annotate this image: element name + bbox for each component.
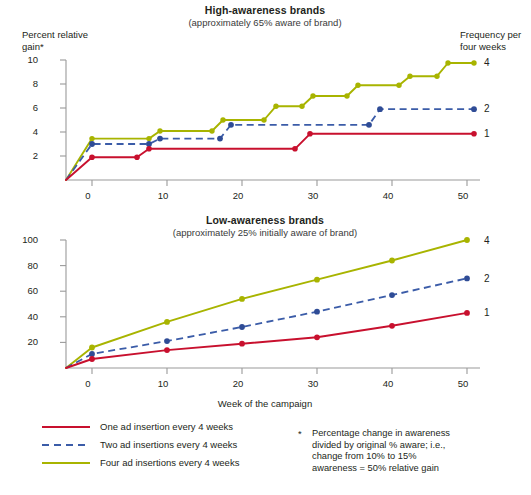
footnote-line-4: awareness = 50% relative gain [312,463,528,475]
y-axis-title-line1: Percent relative [22,29,88,40]
chart2-axes [60,240,480,374]
chart2-freq-label-4: 4 [484,235,490,246]
chart2-ytick-40: 40 [10,311,38,322]
chart1-xtick-40: 40 [378,190,398,201]
chart2-xtick-0: 0 [78,378,98,389]
chart1-right-axis-title: Frequency per four weeks [460,29,531,52]
chart1-freq-label-2: 2 [484,103,490,114]
chart1-xtick-10: 10 [153,190,173,201]
footnote-line-2: divided by original % aware; i.e., [312,440,528,452]
footnote-text: Percentage change in awareness divided b… [312,428,528,474]
chart2-series-one [66,310,470,368]
chart2-xtick-30: 30 [303,378,323,389]
chart1-freq-label-1: 1 [484,128,490,139]
legend: One ad insertion every 4 weeks Two ad in… [40,418,290,472]
legend-item-two[interactable]: Two ad insertions every 4 weeks [40,436,290,454]
y-axis-title-line2: gain* [22,41,44,52]
chart2-xtick-40: 40 [378,378,398,389]
chart1-freq-label-4: 4 [484,57,490,68]
chart1-xtick-0: 0 [78,190,98,201]
chart1-ytick-2: 2 [20,150,38,161]
chart2-freq-label-1: 1 [484,307,490,318]
legend-item-four[interactable]: Four ad insertions every 4 weeks [40,454,290,472]
footnote-marker: * [298,429,302,439]
chart1-xtick-50: 50 [453,190,473,201]
chart2-ytick-80: 80 [10,260,38,271]
legend-label-two: Two ad insertions every 4 weeks [100,439,237,450]
footnote: * Percentage change in awareness divided… [298,428,528,474]
chart2-freq-label-2: 2 [484,273,490,284]
chart1-title: High-awareness brands [150,4,380,16]
footnote-line-1: Percentage change in awareness [312,428,528,440]
chart1-series-two [66,106,477,180]
chart2-ytick-60: 60 [10,285,38,296]
chart1-xtick-30: 30 [303,190,323,201]
chart2-title: Low-awareness brands [150,214,380,226]
chart2-ytick-100: 100 [10,234,38,245]
chart1-ytick-6: 6 [20,102,38,113]
chart1-series-four [66,60,477,180]
chart1-ytick-8: 8 [20,78,38,89]
chart1-y-axis-title: Percent relative gain* [22,29,112,52]
chart2-series-four [66,237,470,368]
chart2-xtick-20: 20 [228,378,248,389]
chart2-xtick-10: 10 [153,378,173,389]
legend-swatch-four [40,454,92,472]
chart2-xtick-50: 50 [453,378,473,389]
chart1-subtitle: (approximately 65% aware of brand) [130,17,400,28]
chart1-plot [18,52,488,202]
legend-swatch-one [40,418,92,436]
chart1-xtick-20: 20 [228,190,248,201]
chart2-ytick-20: 20 [10,336,38,347]
legend-swatch-two [40,436,92,454]
chart1-axes [60,60,480,186]
legend-item-one[interactable]: One ad insertion every 4 weeks [40,418,290,436]
chart2-plot [18,232,488,382]
chart1-ytick-10: 10 [20,54,38,65]
legend-label-one: One ad insertion every 4 weeks [100,421,233,432]
legend-label-four: Four ad insertions every 4 weeks [100,457,239,468]
right-axis-title-line1: Frequency per [460,29,521,40]
chart1-ytick-4: 4 [20,126,38,137]
x-axis-title: Week of the campaign [180,398,350,410]
right-axis-title-line2: four weeks [460,41,506,52]
footnote-line-3: change from 10% to 15% [312,451,528,463]
